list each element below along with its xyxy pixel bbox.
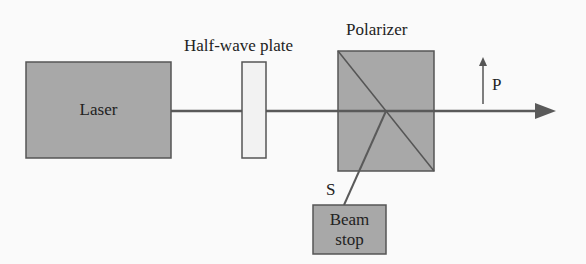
polarizer-label: Polarizer (346, 21, 407, 38)
beam-stop-label-line2: stop (313, 231, 386, 248)
beam-arrowhead-icon (535, 103, 556, 119)
half-wave-plate (242, 62, 266, 158)
beam-stop-label-line1: Beam (313, 211, 386, 228)
s-label: S (326, 181, 335, 198)
p-arrowhead-icon (479, 57, 487, 66)
laser-label: Laser (26, 101, 171, 118)
half-wave-plate-label: Half-wave plate (184, 37, 293, 54)
p-label: P (492, 76, 501, 93)
